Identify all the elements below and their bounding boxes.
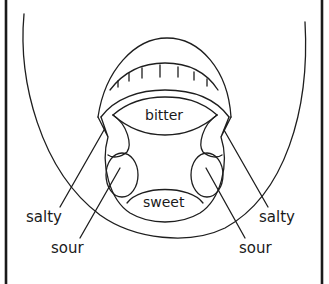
sour-label-left: sour xyxy=(51,239,84,257)
sweet-label: sweet xyxy=(143,194,185,210)
salty-region-right xyxy=(201,115,222,157)
salty-label-right: salty xyxy=(259,208,295,226)
salty-region-left xyxy=(108,115,129,157)
sour-region-left xyxy=(106,153,138,197)
upper-lip-outer xyxy=(98,38,231,117)
tongue-taste-diagram: bitter sweet salty sour salty sour xyxy=(0,0,329,284)
leader-salty-right xyxy=(224,130,268,207)
leader-salty-left xyxy=(60,130,104,207)
lip-corner-left xyxy=(98,117,108,137)
teeth-arc xyxy=(110,63,218,90)
salty-label-left: salty xyxy=(26,208,62,226)
bitter-label: bitter xyxy=(145,107,183,123)
sour-label-right: sour xyxy=(239,239,272,257)
